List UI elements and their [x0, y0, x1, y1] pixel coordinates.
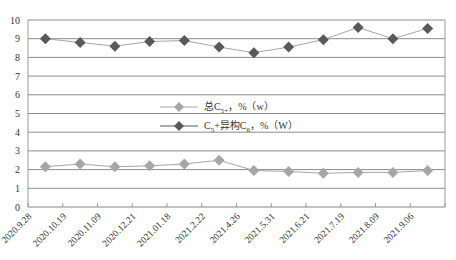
- data-point-diamond-icon: [214, 42, 225, 53]
- x-tick-label: 2020.12.21: [100, 211, 137, 248]
- x-tick-label: 2021.01.18: [135, 211, 172, 248]
- legend-marker-dark-diamond-icon: [160, 120, 198, 132]
- y-tick-label: 6: [15, 89, 20, 100]
- x-tick-label: 2020.11.09: [66, 211, 103, 248]
- x-tick-label: 2020.9.28: [0, 211, 34, 245]
- data-point-diamond-icon: [422, 165, 433, 176]
- data-point-diamond-icon: [422, 23, 433, 34]
- y-tick-label: 7: [15, 71, 20, 82]
- legend-item-c5-iso-c6: C5+异构C6，%（W）: [160, 116, 298, 135]
- x-tick-label: 2020.10.19: [31, 211, 68, 248]
- y-tick-label: 2: [15, 164, 20, 175]
- y-tick-label: 3: [15, 145, 20, 156]
- y-tick-label: 9: [15, 33, 20, 44]
- x-tick-label: 2021.7.19: [312, 211, 346, 245]
- legend-label-total-c5: 总C5+，%（w）: [204, 98, 274, 115]
- data-point-diamond-icon: [214, 155, 225, 166]
- data-point-diamond-icon: [318, 34, 329, 45]
- x-tick-label: 2021.8.09: [347, 211, 381, 245]
- series-line: [45, 160, 427, 173]
- data-point-diamond-icon: [283, 42, 294, 53]
- data-point-diamond-icon: [248, 47, 259, 58]
- x-axis: 2020.9.282020.10.192020.11.092020.12.212…: [0, 203, 445, 249]
- legend-label-c5-iso-c6: C5+异构C6，%（W）: [204, 117, 298, 134]
- x-tick-label: 2021.2.22: [173, 211, 207, 245]
- data-point-diamond-icon: [248, 165, 259, 176]
- y-tick-label: 4: [15, 127, 20, 138]
- data-point-diamond-icon: [283, 166, 294, 177]
- y-tick-label: 0: [15, 202, 20, 213]
- series-line: [45, 27, 427, 52]
- y-tick-label: 10: [10, 15, 20, 26]
- data-point-diamond-icon: [75, 158, 86, 169]
- data-point-diamond-icon: [353, 22, 364, 33]
- data-point-diamond-icon: [40, 161, 51, 172]
- data-point-diamond-icon: [179, 158, 190, 169]
- legend-marker-light-diamond-icon: [160, 101, 198, 113]
- line-chart: 012345678910 2020.9.282020.10.192020.11.…: [0, 0, 456, 260]
- x-tick-label: 2021.4.26: [208, 211, 242, 245]
- data-point-diamond-icon: [179, 35, 190, 46]
- data-point-diamond-icon: [387, 33, 398, 44]
- data-point-diamond-icon: [387, 167, 398, 178]
- data-point-diamond-icon: [109, 161, 120, 172]
- data-point-diamond-icon: [40, 33, 51, 44]
- x-tick-label: 2021.5.31: [243, 211, 277, 245]
- x-tick-label: 2021.6.21: [277, 211, 311, 245]
- legend: 总C5+，%（w） C5+异构C6，%（W）: [160, 97, 298, 135]
- y-tick-label: 1: [15, 183, 20, 194]
- data-point-diamond-icon: [353, 167, 364, 178]
- data-point-diamond-icon: [109, 41, 120, 52]
- x-tick-label: 2021.9.06: [382, 211, 416, 245]
- legend-item-total-c5: 总C5+，%（w）: [160, 97, 298, 116]
- data-point-diamond-icon: [144, 36, 155, 47]
- y-tick-label: 5: [15, 108, 20, 119]
- y-axis-ticks: 012345678910: [10, 15, 20, 213]
- y-tick-label: 8: [15, 52, 20, 63]
